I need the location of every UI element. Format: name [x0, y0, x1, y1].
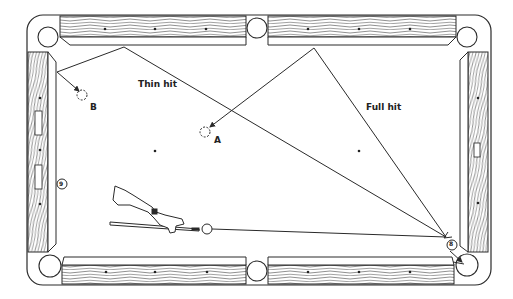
head-spot — [154, 150, 157, 153]
wristwatch-icon — [152, 209, 157, 214]
cue-tip — [192, 228, 199, 230]
ball-b-label: B — [90, 103, 97, 112]
table-drawing — [0, 0, 513, 299]
top-rail-right — [268, 16, 456, 37]
cue-to-8-path — [212, 229, 446, 237]
pocket-bottom-middle — [247, 261, 267, 281]
pocket-top-middle — [247, 18, 267, 38]
thin-hit-label: Thin hit — [138, 80, 177, 89]
full-hit-label: Full hit — [366, 103, 401, 112]
thin-hit-arrow — [57, 72, 79, 91]
full-hit-arrow — [210, 48, 314, 127]
bottom-rail-left — [62, 265, 246, 284]
table-frame — [27, 15, 491, 285]
shot-paths — [57, 47, 464, 264]
pocket-bottom-right — [456, 254, 478, 276]
pool-table-diagram: Thin hit Full hit B A 8 9 — [0, 0, 513, 299]
pocket-top-right — [457, 27, 477, 47]
full-hit-path — [314, 48, 446, 237]
top-rail-left — [60, 16, 246, 37]
ghost-ball-a — [200, 127, 210, 137]
cue-ball — [202, 224, 212, 234]
left-rail — [28, 52, 48, 252]
ball-a-label: A — [214, 136, 221, 145]
pocket-top-left — [38, 27, 58, 47]
thin-hit-path — [57, 47, 446, 237]
bottom-rail-right — [268, 265, 454, 284]
foot-spot — [358, 150, 361, 153]
cue-and-hand — [110, 186, 199, 233]
pocket-bottom-left — [39, 255, 61, 277]
right-rail — [468, 52, 488, 252]
cue-stick — [110, 222, 199, 231]
pockets — [38, 18, 478, 281]
ghost-ball-b — [77, 90, 87, 100]
ball-8-number: 8 — [449, 241, 453, 247]
ball-9-number: 9 — [59, 181, 63, 187]
